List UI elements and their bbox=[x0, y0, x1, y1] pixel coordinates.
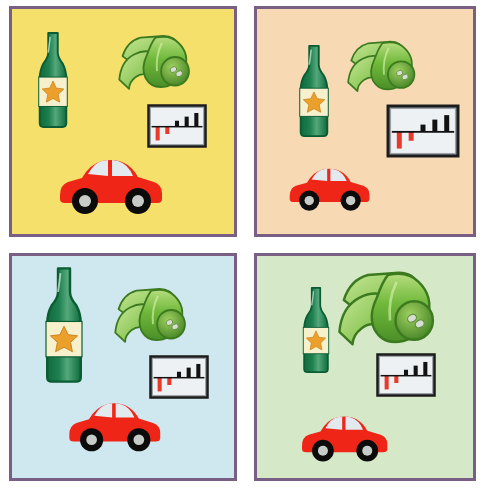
bottle-with-star-label[interactable] bbox=[299, 286, 333, 374]
panel-bottom-left[interactable] bbox=[9, 253, 237, 481]
bar-chart-picture[interactable] bbox=[146, 103, 208, 149]
rolled-carpet[interactable] bbox=[335, 266, 445, 350]
bar-chart-picture[interactable] bbox=[385, 103, 461, 159]
rolled-carpet[interactable] bbox=[112, 284, 194, 346]
panel-top-right[interactable] bbox=[254, 6, 476, 237]
rolled-carpet[interactable] bbox=[345, 37, 423, 95]
red-car[interactable] bbox=[64, 390, 162, 454]
red-car[interactable] bbox=[285, 157, 371, 213]
bottle-with-star-label[interactable] bbox=[295, 44, 333, 138]
bottle-with-star-label[interactable] bbox=[34, 31, 72, 129]
panel-bottom-right[interactable] bbox=[254, 253, 476, 481]
bar-chart-picture[interactable] bbox=[375, 352, 437, 398]
red-car[interactable] bbox=[54, 145, 164, 217]
panel-grid bbox=[0, 0, 483, 495]
bottle-with-star-label[interactable] bbox=[40, 266, 88, 384]
red-car[interactable] bbox=[297, 404, 389, 464]
panel-top-left[interactable] bbox=[9, 6, 237, 237]
rolled-carpet[interactable] bbox=[116, 31, 198, 93]
